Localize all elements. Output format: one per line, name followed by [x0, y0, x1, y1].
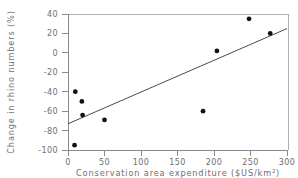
y-axis-title: Change in rhino numbers (%): [6, 10, 16, 153]
y-tick-group: 20: [47, 29, 68, 38]
y-tick-label: 20: [47, 29, 58, 38]
data-point: [79, 99, 84, 104]
x-axis-title: Conservation area expenditure ($US/km2): [76, 168, 280, 178]
x-tick-group: 100: [133, 150, 149, 167]
y-tick-label: 40: [47, 10, 58, 19]
plot-frame: [68, 14, 288, 150]
data-point: [215, 49, 220, 54]
x-tick-label: 50: [99, 158, 110, 167]
data-points-group: [72, 16, 272, 147]
regression-trend-line: [68, 29, 287, 124]
y-tick-label: -40: [44, 88, 58, 97]
x-tick-group: 50: [99, 150, 110, 167]
x-axis-ticks: 0 50 100 150 200 250: [65, 150, 295, 167]
data-point: [247, 16, 252, 21]
data-point: [201, 109, 206, 114]
x-tick-group: 150: [169, 150, 185, 167]
y-tick-group: -60: [44, 107, 68, 116]
y-tick-label: 0: [53, 49, 59, 58]
y-tick-group: 40: [47, 10, 68, 19]
y-tick-group: -40: [44, 88, 68, 97]
data-point: [80, 113, 85, 118]
y-tick-group: -80: [44, 127, 68, 136]
chart-canvas: 40 20 0 -20 -40 -60: [0, 0, 298, 178]
y-tick-group: -100: [38, 146, 68, 155]
x-tick-label: 300: [279, 158, 295, 167]
x-tick-label: 250: [242, 158, 258, 167]
data-point: [73, 89, 78, 94]
y-tick-label: -100: [38, 146, 58, 155]
x-tick-group: 200: [206, 150, 222, 167]
x-tick-label: 100: [133, 158, 149, 167]
scatter-plot-figure: 40 20 0 -20 -40 -60: [0, 0, 298, 178]
y-tick-label: -20: [44, 68, 58, 77]
x-tick-label: 150: [169, 158, 185, 167]
x-tick-label: 200: [206, 158, 222, 167]
x-tick-label: 0: [65, 158, 71, 167]
y-axis-ticks: 40 20 0 -20 -40 -60: [38, 10, 68, 155]
x-tick-group: 0: [65, 150, 71, 167]
y-tick-label: -60: [44, 107, 58, 116]
data-point: [72, 143, 77, 148]
y-tick-label: -80: [44, 127, 58, 136]
data-point: [102, 117, 107, 122]
y-tick-group: -20: [44, 68, 68, 77]
data-point: [268, 31, 273, 36]
x-tick-group: 250: [242, 150, 258, 167]
x-tick-group: 300: [279, 150, 295, 167]
y-tick-group: 0: [53, 49, 69, 58]
